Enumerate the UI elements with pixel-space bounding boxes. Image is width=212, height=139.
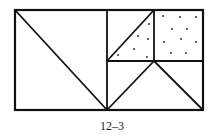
- dotted-square-dot: [186, 28, 188, 30]
- dotted-square-dot: [195, 41, 197, 43]
- dotted-triangle-dot: [148, 23, 150, 25]
- lower-left-slant-line: [107, 61, 154, 110]
- dotted-triangle-dot: [137, 35, 139, 37]
- dotted-square-dot: [185, 52, 187, 54]
- dotted-triangle-dot: [147, 38, 149, 40]
- figure-lines: [15, 10, 203, 110]
- dotted-square-dot: [170, 52, 172, 54]
- dotted-square-dot: [179, 16, 181, 18]
- dotted-square-dot: [162, 15, 164, 17]
- upper-triangle-diagonal-line: [107, 10, 154, 61]
- figure-caption: 12–3: [0, 119, 212, 134]
- dotted-square-dot: [180, 38, 182, 40]
- lower-right-slant-line: [154, 61, 203, 110]
- dotted-triangle-dot: [133, 48, 135, 50]
- left-square-diagonal-line: [15, 10, 107, 110]
- dotted-triangle-dot: [146, 56, 148, 58]
- dotted-square-dot: [163, 41, 165, 43]
- dotted-triangle-dot: [117, 54, 119, 56]
- dotted-square-dot: [195, 16, 197, 18]
- dotted-square-dot: [171, 28, 173, 30]
